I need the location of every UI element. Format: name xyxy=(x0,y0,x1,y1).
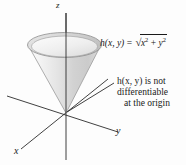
y-axis-label: y xyxy=(116,126,120,136)
cone-figure: z y x h(x, y) = √x2 + y2 h(x, y) is not … xyxy=(0,0,186,165)
non-differentiable-note: h(x, y) is not differentiable at the ori… xyxy=(117,76,185,110)
radicand-y-exponent: 2 xyxy=(163,36,166,43)
formula-args: (x, y) xyxy=(105,38,125,48)
cone-rim-inner xyxy=(32,36,98,57)
note-line-1: h(x, y) is not xyxy=(117,76,185,87)
note-line-3: at the origin xyxy=(117,98,185,109)
formula-radical: √x2 + y2 xyxy=(134,34,167,49)
radicand-x-exponent: 2 xyxy=(145,36,148,43)
formula-radicand: x2 + y2 xyxy=(140,34,167,49)
radicand-plus: + xyxy=(151,38,156,48)
surface-equation-label: h(x, y) = √x2 + y2 xyxy=(100,34,167,49)
x-axis-label: x xyxy=(14,146,18,156)
formula-equals: = xyxy=(127,38,132,48)
z-axis-label: z xyxy=(56,1,60,10)
note-line-2: differentiable xyxy=(117,87,185,98)
